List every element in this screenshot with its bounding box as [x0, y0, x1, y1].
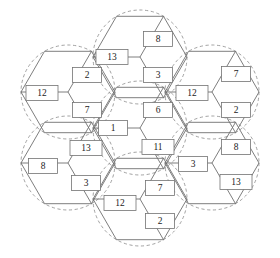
channel-label-upper-right-left: 12 — [187, 88, 197, 98]
channel-label-upper-left-left: 12 — [37, 88, 47, 98]
channel-label-upper-left-lower-right: 7 — [85, 105, 90, 115]
cell-cluster-diagram: 1611138312723813127281331227 — [0, 0, 280, 258]
channel-label-upper-left-upper-right: 2 — [85, 70, 90, 80]
channel-label-lower-right-upper-right: 8 — [234, 142, 239, 152]
channel-label-top-upper-right: 8 — [156, 34, 161, 44]
channel-label-lower-left-upper-right: 13 — [81, 143, 91, 153]
channel-label-bottom-upper-right: 7 — [158, 183, 163, 193]
cellular-reuse-figure: 1611138312723813127281331227 — [0, 0, 280, 258]
channel-label-top-left: 13 — [107, 52, 117, 62]
channel-label-lower-left-lower-right: 3 — [84, 178, 89, 188]
channel-label-center-lower-right: 11 — [153, 142, 162, 152]
channel-label-lower-right-lower-right: 13 — [231, 177, 241, 187]
channel-label-center-left: 1 — [111, 123, 116, 133]
channel-label-upper-right-lower-right: 2 — [234, 105, 239, 115]
channel-label-lower-right-left: 3 — [191, 159, 196, 169]
channel-label-bottom-left: 12 — [115, 198, 125, 208]
channel-label-bottom-lower-right: 2 — [158, 216, 163, 226]
channel-label-lower-left-left: 8 — [41, 161, 46, 171]
channel-label-top-lower-right: 3 — [156, 70, 161, 80]
channel-label-center-upper-right: 6 — [156, 105, 161, 115]
channel-label-upper-right-upper-right: 7 — [234, 69, 239, 79]
